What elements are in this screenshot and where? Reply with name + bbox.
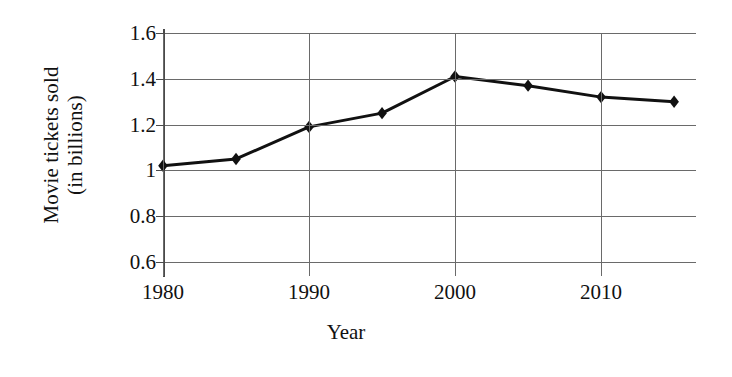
x-axis-tick-label: 1990 (288, 282, 330, 303)
y-axis-title-line-2: (in billions) (64, 67, 88, 224)
x-axis-tick-labels: 1980199020002010 (0, 282, 732, 312)
gridline-horizontal (163, 125, 696, 126)
y-axis-tick-mark (156, 125, 165, 126)
x-axis-title-text: Year (327, 320, 366, 344)
y-axis-tick-label: 0.8 (96, 206, 156, 227)
data-point-marker (523, 79, 533, 91)
gridline-vertical (309, 33, 310, 276)
y-axis-tick-mark (156, 170, 165, 171)
y-axis-tick-mark (156, 33, 165, 34)
y-axis-tick-mark (156, 262, 165, 263)
y-axis-tick-label: 1.2 (96, 114, 156, 135)
chart-figure: Movie tickets sold (in billions) 0.60.81… (0, 0, 732, 377)
y-axis-tick-label: 1.4 (96, 68, 156, 89)
x-axis-tick-label: 2000 (434, 282, 476, 303)
y-axis-tick-label: 1 (96, 160, 156, 181)
gridline-vertical (601, 33, 602, 276)
series-line-movie-tickets-sold (163, 33, 696, 262)
x-axis-title: Year (0, 320, 732, 345)
data-point-marker (231, 153, 241, 165)
gridline-vertical (455, 33, 456, 276)
y-axis-title-line-1: Movie tickets sold (40, 67, 64, 224)
gridline-vertical (163, 33, 164, 276)
y-axis-title-text: Movie tickets sold (in billions) (40, 67, 87, 224)
series-polyline (163, 77, 674, 166)
gridline-horizontal (163, 33, 696, 34)
x-axis-tick-label: 1980 (142, 282, 184, 303)
y-axis-tick-mark (156, 79, 165, 80)
data-point-marker (669, 96, 679, 108)
x-axis-tick-label: 2010 (580, 282, 622, 303)
gridline-horizontal (163, 79, 696, 80)
y-axis-tick-label: 0.6 (96, 252, 156, 273)
gridline-horizontal (163, 262, 696, 263)
y-axis-tick-label: 1.6 (96, 23, 156, 44)
data-point-marker (377, 107, 387, 119)
gridline-horizontal (163, 216, 696, 217)
plot-area (163, 33, 696, 262)
gridline-horizontal (163, 170, 696, 171)
y-axis-tick-mark (156, 216, 165, 217)
